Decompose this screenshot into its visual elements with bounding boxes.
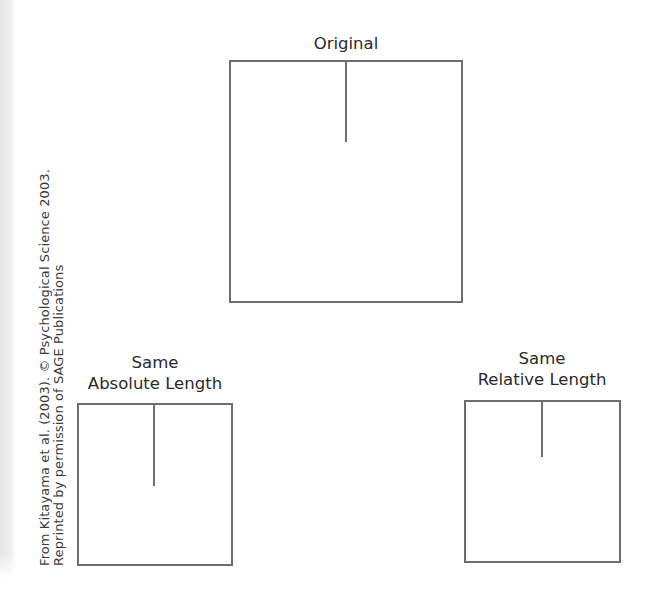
absolute-length-label: Same Absolute Length bbox=[65, 352, 245, 394]
original-label: Original bbox=[229, 33, 463, 54]
original-label-text: Original bbox=[229, 33, 463, 54]
original-frame bbox=[229, 60, 463, 303]
absolute-label-line-2: Absolute Length bbox=[65, 373, 245, 394]
page-gutter-shadow bbox=[0, 0, 16, 578]
credit-line-1: From Kitayama et al. (2003). © Psycholog… bbox=[38, 169, 52, 566]
original-line bbox=[345, 62, 347, 142]
figure-credit: From Kitayama et al. (2003). © Psycholog… bbox=[38, 169, 66, 566]
relative-length-label: Same Relative Length bbox=[452, 348, 632, 390]
absolute-length-frame bbox=[77, 403, 233, 566]
relative-label-line-1: Same bbox=[452, 348, 632, 369]
relative-length-frame bbox=[464, 400, 621, 563]
relative-length-line bbox=[541, 402, 543, 457]
absolute-label-line-1: Same bbox=[65, 352, 245, 373]
relative-label-line-2: Relative Length bbox=[452, 369, 632, 390]
credit-line-2: Reprinted by permission of SAGE Publicat… bbox=[52, 169, 66, 566]
absolute-length-line bbox=[153, 405, 155, 486]
